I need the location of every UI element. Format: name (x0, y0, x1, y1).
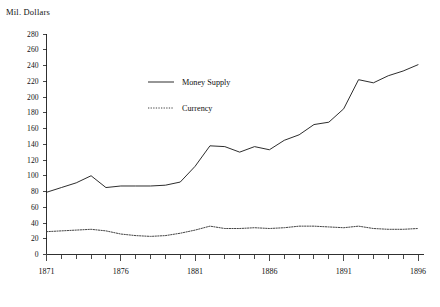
y-axis-tick-label: 280 (27, 30, 39, 39)
y-axis-tick-label: 0 (35, 250, 39, 259)
y-axis-tick-label: 200 (27, 93, 39, 102)
legend-label-currency: Currency (182, 104, 213, 113)
x-axis-tick-label: 1891 (336, 267, 352, 276)
y-axis-tick-label: 80 (31, 187, 39, 196)
legend-label-money-supply: Money Supply (182, 78, 231, 87)
y-axis-tick-label: 140 (27, 140, 39, 149)
x-axis-tick-label: 1871 (39, 267, 55, 276)
line-chart-plot: 020406080100120140160180200220240260280 … (0, 0, 440, 307)
x-axis-tick-label: 1881 (187, 267, 203, 276)
series-line-money-supply (47, 65, 419, 193)
y-axis-tick-marks (43, 34, 47, 255)
y-axis-tick-label: 240 (27, 61, 39, 70)
y-axis-tick-label: 120 (27, 156, 39, 165)
y-axis-tick-label: 40 (31, 219, 39, 228)
chart-figure: Mil. Dollars 020406080100120140160180200… (0, 0, 440, 307)
y-axis-tick-label: 160 (27, 124, 39, 133)
y-axis-tick-labels: 020406080100120140160180200220240260280 (27, 30, 39, 260)
series-line-currency (47, 226, 419, 236)
x-axis-tick-label: 1886 (261, 267, 277, 276)
x-axis-tick-label: 1896 (410, 267, 426, 276)
y-axis-tick-label: 60 (31, 203, 39, 212)
y-axis-tick-label: 260 (27, 45, 39, 54)
x-axis-tick-labels: 187118761881188618911896 (39, 267, 427, 276)
x-axis-tick-marks (47, 255, 419, 261)
y-axis-tick-label: 220 (27, 77, 39, 86)
y-axis-tick-label: 180 (27, 108, 39, 117)
x-axis-tick-label: 1876 (113, 267, 129, 276)
y-axis-tick-label: 20 (31, 234, 39, 243)
chart-legend: Money Supply Currency (148, 78, 231, 113)
y-axis-tick-label: 100 (27, 171, 39, 180)
